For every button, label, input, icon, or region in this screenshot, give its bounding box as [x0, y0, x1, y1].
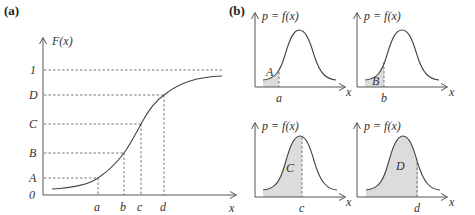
y-axis-label: p = f(x)	[363, 119, 401, 133]
figure-canvas: (a) F(x) x 1 D C B A 0 a b c d (b)	[0, 0, 475, 215]
panel-a-cdf: (a) F(x) x 1 D C B A 0 a b c d	[4, 3, 236, 215]
x-point-d: d	[160, 200, 167, 214]
point-label-a: a	[276, 91, 282, 105]
x-point-c: c	[137, 200, 143, 214]
point-label-d: d	[414, 201, 421, 215]
y-level-1: 1	[30, 63, 36, 77]
pdf-subplot-c: p = f(x) x c C	[255, 119, 352, 215]
area-label-C: C	[286, 161, 295, 175]
area-label-A: A	[265, 65, 274, 79]
y-axis-label: p = f(x)	[363, 9, 401, 23]
point-label-b: b	[381, 91, 387, 105]
pdf-curve	[263, 30, 336, 80]
y-level-A: A	[28, 171, 37, 185]
pdf-subplot-d: p = f(x) x d D	[357, 119, 455, 215]
pdf-subplot-b: p = f(x) x b B	[357, 9, 455, 105]
y-level-0: 0	[29, 188, 35, 202]
y-level-D: D	[28, 88, 38, 102]
x-axis-label: x	[345, 195, 352, 209]
y-level-B: B	[29, 146, 37, 160]
pdf-curve	[365, 30, 439, 80]
pdf-subplot-a: p = f(x) x a A	[255, 9, 352, 105]
x-point-b: b	[120, 200, 126, 214]
cdf-curve	[52, 76, 222, 189]
y-axis-label: p = f(x)	[261, 9, 299, 23]
area-label-D: D	[395, 159, 405, 173]
panel-b-label: (b)	[229, 3, 245, 18]
shaded-area-C	[263, 136, 302, 197]
point-label-c: c	[299, 201, 305, 215]
x-axis-label: x	[345, 85, 352, 99]
y-level-C: C	[29, 117, 38, 131]
x-point-a: a	[94, 200, 100, 214]
area-label-B: B	[372, 74, 380, 88]
panel-a-label: (a)	[4, 3, 19, 18]
x-axis-label: x	[228, 201, 235, 215]
y-axis-label: F(x)	[51, 34, 73, 48]
x-axis-label: x	[448, 85, 455, 99]
y-axis-label: p = f(x)	[261, 119, 299, 133]
x-axis-label: x	[448, 195, 455, 209]
